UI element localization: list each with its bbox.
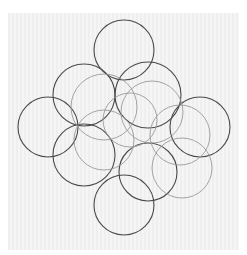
circle-outline [152,138,212,198]
circle-outline [119,143,177,201]
circle-outline [53,64,115,126]
circle-outline [103,93,157,147]
circle-outline [94,175,154,235]
circles-drawing [0,0,247,255]
circle-outline [18,97,78,157]
circle-outline [150,105,210,165]
circles-group [18,20,230,235]
